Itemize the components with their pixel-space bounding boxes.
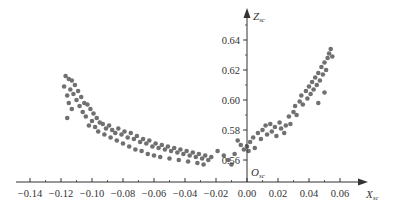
data-point — [279, 126, 284, 131]
data-point — [94, 116, 99, 121]
y-tick-label: 0.62 — [222, 65, 240, 76]
data-point — [116, 126, 121, 131]
data-point — [203, 153, 208, 158]
data-point — [113, 131, 118, 136]
data-point — [315, 83, 320, 88]
data-point — [79, 95, 84, 100]
y-tick-label: 0.64 — [222, 35, 241, 46]
data-point — [84, 114, 89, 119]
data-point — [90, 119, 95, 124]
data-point — [321, 72, 326, 77]
origin-label: Osc — [251, 166, 266, 180]
data-point — [65, 93, 70, 98]
data-point — [239, 143, 244, 148]
data-point — [248, 140, 253, 145]
y-tick-label: 0.56 — [222, 155, 240, 166]
data-point — [73, 83, 78, 88]
data-point — [121, 141, 126, 146]
data-point — [251, 135, 256, 140]
data-point — [195, 161, 200, 166]
data-point — [129, 131, 134, 136]
data-point — [311, 87, 316, 92]
x-tick-label: 0.04 — [300, 188, 319, 199]
x-tick-label: 0.00 — [238, 188, 256, 199]
data-point — [67, 101, 72, 106]
x-tick-label: −0.12 — [49, 188, 73, 199]
data-point — [70, 78, 75, 83]
x-tick-label: −0.08 — [111, 188, 135, 199]
data-point — [273, 125, 278, 130]
data-point — [166, 144, 171, 149]
data-point — [299, 93, 304, 98]
data-point — [265, 132, 270, 137]
data-point — [160, 143, 165, 148]
data-point — [287, 114, 292, 119]
data-point — [80, 110, 85, 115]
data-point — [201, 162, 206, 167]
data-point — [153, 141, 158, 146]
data-point — [322, 90, 327, 95]
data-point — [135, 134, 140, 139]
data-point — [301, 102, 306, 107]
data-point — [87, 123, 92, 128]
data-point — [288, 122, 293, 127]
data-point — [263, 123, 268, 128]
x-tick-label: 0.02 — [269, 188, 287, 199]
data-point — [133, 147, 138, 152]
data-point — [316, 101, 321, 106]
x-ticks: −0.14−0.12−0.10−0.08−0.06−0.04−0.020.000… — [18, 178, 349, 199]
x-tick-label: −0.10 — [80, 188, 104, 199]
data-point — [319, 65, 324, 70]
data-point — [68, 87, 73, 92]
data-point — [172, 146, 177, 151]
data-point — [268, 122, 273, 127]
data-point — [294, 113, 299, 118]
data-point — [141, 137, 146, 142]
data-point — [274, 134, 279, 139]
scatter-chart: −0.14−0.12−0.10−0.08−0.06−0.04−0.020.000… — [0, 0, 393, 206]
data-point — [115, 138, 120, 143]
data-point — [74, 98, 79, 103]
data-point — [324, 68, 329, 73]
x-tick-label: −0.06 — [142, 188, 166, 199]
data-point — [107, 123, 112, 128]
data-point — [316, 71, 321, 76]
data-point — [62, 84, 67, 89]
data-point — [96, 129, 101, 134]
data-point — [76, 89, 81, 94]
data-point — [260, 128, 265, 133]
data-point — [325, 56, 330, 61]
data-point — [186, 159, 191, 164]
data-point — [177, 158, 182, 163]
data-point — [184, 149, 189, 154]
data-point — [256, 131, 261, 136]
data-point — [91, 111, 96, 116]
y-ticks: 0.560.580.600.620.64 — [222, 25, 247, 166]
data-point — [307, 84, 312, 89]
data-point — [88, 107, 93, 112]
data-point — [277, 120, 282, 125]
data-point — [330, 54, 335, 59]
x-tick-label: 0.06 — [331, 188, 349, 199]
data-point — [158, 155, 163, 160]
y-tick-label: 0.60 — [222, 95, 240, 106]
data-point — [235, 138, 240, 143]
scatter-points — [62, 47, 335, 167]
data-point — [108, 135, 113, 140]
data-point — [308, 92, 313, 97]
x-axis-title: Xsc — [365, 188, 379, 202]
data-point — [85, 102, 90, 107]
data-point — [313, 75, 318, 80]
data-point — [318, 78, 323, 83]
y-axis-arrow-icon — [244, 8, 251, 18]
data-point — [305, 96, 310, 101]
y-tick-label: 0.58 — [222, 125, 240, 136]
data-point — [253, 146, 258, 151]
data-point — [127, 144, 132, 149]
data-point — [284, 123, 289, 128]
data-point — [122, 129, 127, 134]
data-point — [139, 149, 144, 154]
data-point — [71, 92, 76, 97]
data-point — [77, 104, 82, 109]
data-point — [147, 138, 152, 143]
